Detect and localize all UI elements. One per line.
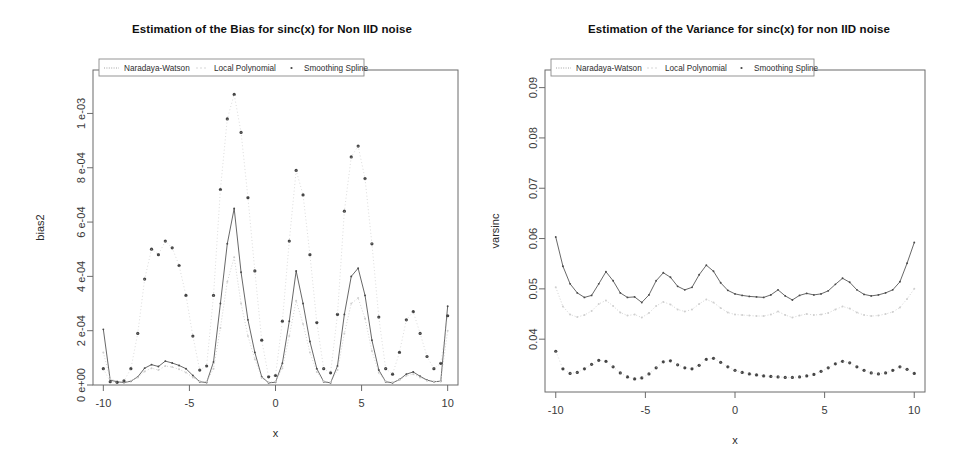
bias-plot-panel: Estimation of the Bias for sinc(x) for N…: [0, 0, 476, 462]
data-point: [898, 365, 901, 368]
data-point: [655, 366, 658, 369]
data-point: [598, 303, 600, 305]
data-point: [212, 294, 215, 297]
data-point: [627, 296, 629, 298]
data-point: [109, 378, 111, 380]
legend[interactable]: Naradaya-WatsonLocal PolynomialSmoothing…: [99, 59, 369, 76]
variance-plot-svg: Estimation of the Variance for sinc(x) f…: [477, 0, 953, 462]
y-axis-label: bias2: [34, 214, 46, 240]
data-point: [233, 208, 235, 210]
data-point: [144, 367, 146, 369]
data-point: [863, 314, 865, 316]
data-point: [412, 373, 414, 375]
data-point: [323, 380, 325, 382]
data-point: [254, 358, 256, 360]
series-ss: [554, 350, 916, 381]
data-point: [281, 367, 283, 369]
data-point: [288, 320, 290, 322]
data-point: [913, 288, 915, 290]
data-point: [712, 357, 715, 360]
data-point: [357, 297, 359, 299]
data-point: [777, 289, 779, 291]
x-tick-label: -10: [95, 397, 111, 409]
data-point: [755, 373, 758, 376]
legend-label: Local Polynomial: [665, 64, 727, 73]
data-point: [720, 307, 722, 309]
data-point: [776, 375, 779, 378]
legend-label: Smoothing Spline: [304, 64, 369, 73]
data-point: [885, 313, 887, 315]
figure-canvas: Estimation of the Bias for sinc(x) for N…: [0, 0, 953, 462]
data-point: [641, 301, 643, 303]
data-point: [640, 376, 643, 379]
y-axis-label: varsinc: [489, 213, 501, 248]
data-point: [102, 328, 104, 330]
legend-label: Smoothing Spline: [754, 64, 819, 73]
data-point: [130, 380, 132, 382]
data-point: [364, 317, 366, 319]
data-point: [834, 283, 836, 285]
data-point: [164, 239, 167, 242]
data-point: [677, 285, 679, 287]
series-line: [103, 208, 447, 382]
data-point: [205, 364, 208, 367]
data-point: [330, 381, 332, 383]
data-point: [164, 365, 166, 367]
data-point: [819, 370, 822, 373]
data-point: [813, 294, 815, 296]
x-tick-label: -5: [185, 397, 195, 409]
data-point: [219, 303, 221, 305]
data-point: [432, 367, 435, 370]
data-point: [309, 341, 311, 343]
data-point: [309, 351, 311, 353]
y-tick-label: 0.04: [527, 328, 539, 349]
data-point: [569, 314, 571, 316]
data-point: [877, 294, 879, 296]
data-point: [727, 312, 729, 314]
plot-frame: [545, 70, 925, 392]
data-point: [612, 280, 614, 282]
series-lp: [555, 286, 916, 318]
data-point: [555, 236, 557, 238]
data-point: [569, 283, 571, 285]
series-trace: [103, 94, 447, 382]
data-point: [806, 292, 808, 294]
data-point: [157, 253, 160, 256]
data-point: [447, 330, 449, 332]
data-point: [419, 376, 421, 378]
data-point: [634, 296, 636, 298]
legend[interactable]: Naradaya-WatsonLocal PolynomialSmoothing…: [551, 59, 819, 76]
y-tick-label: 8 e-04: [75, 152, 87, 183]
data-point: [834, 362, 837, 365]
series-ss: [102, 93, 450, 384]
data-point: [899, 306, 901, 308]
data-point: [777, 311, 779, 313]
x-tick-label: 0: [272, 397, 278, 409]
data-point: [151, 367, 153, 369]
data-point: [770, 294, 772, 296]
data-point: [157, 366, 159, 368]
variance-plot-title: Estimation of the Variance for sinc(x) f…: [588, 23, 890, 35]
data-point: [799, 315, 801, 317]
y-tick-label: 6 e-04: [75, 206, 87, 237]
data-point: [763, 296, 765, 298]
data-point: [447, 305, 449, 307]
y-tick-label: 0.05: [527, 278, 539, 299]
data-point: [849, 307, 851, 309]
data-point: [261, 377, 263, 379]
x-tick-label: 0: [732, 404, 738, 416]
data-point: [870, 295, 872, 297]
data-point: [641, 317, 643, 319]
data-point: [562, 265, 564, 267]
legend-label: Naradaya-Watson: [124, 64, 190, 73]
data-point: [178, 368, 180, 370]
data-point: [329, 371, 332, 374]
data-point: [885, 292, 887, 294]
data-point: [275, 381, 277, 383]
data-point: [827, 312, 829, 314]
legend-label: Local Polynomial: [214, 64, 276, 73]
data-point: [185, 372, 187, 374]
data-point: [691, 286, 693, 288]
data-point: [691, 308, 693, 310]
data-point: [684, 311, 686, 313]
